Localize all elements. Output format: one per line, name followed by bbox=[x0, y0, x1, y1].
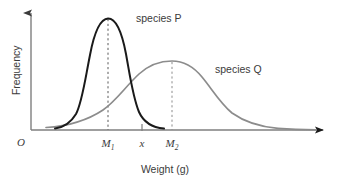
y-axis-title: Frequency bbox=[11, 33, 22, 107]
x-tick-label-m2: M2 bbox=[158, 137, 186, 152]
x-tick-label-m1: M1 bbox=[94, 137, 122, 152]
origin-label: O bbox=[17, 137, 25, 148]
chart-plot-area bbox=[0, 0, 339, 184]
x-tick-label-x: x bbox=[130, 137, 154, 149]
series-label-species-p: species P bbox=[136, 13, 182, 24]
x-axis-title: Weight (g) bbox=[111, 164, 219, 175]
series-label-species-q: species Q bbox=[215, 64, 262, 75]
species-p-curve bbox=[55, 19, 164, 129]
frequency-distribution-chart: species P species Q Frequency Weight (g)… bbox=[0, 0, 339, 184]
